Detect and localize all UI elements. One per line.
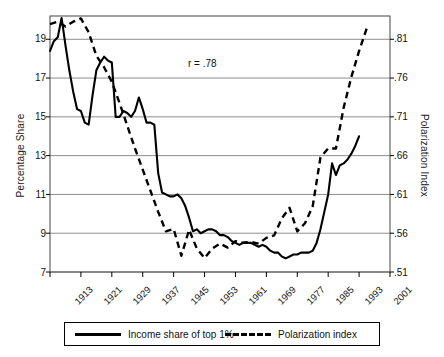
legend-item-polarization-index: Polarization index [225, 323, 357, 345]
axis-ticks [46, 39, 394, 277]
legend-label: Income share of top 1% [128, 329, 234, 340]
chart-figure: Percentage Share Polarization Index r = … [0, 0, 444, 357]
legend-swatch-solid-icon [75, 333, 121, 336]
series-line-polarization-index [50, 18, 367, 258]
gridlines [50, 39, 390, 272]
legend-swatch-dashed-icon [225, 333, 271, 336]
series-line-income-share [50, 18, 359, 258]
legend-item-income-share: Income share of top 1% [75, 323, 234, 345]
chart-legend: Income share of top 1% Polarization inde… [64, 322, 380, 346]
legend-label: Polarization index [278, 329, 357, 340]
plot-area [0, 0, 444, 357]
